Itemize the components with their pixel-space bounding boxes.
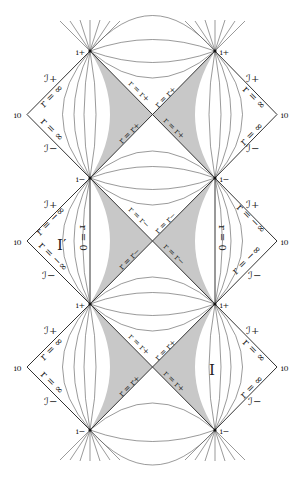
r-infinity: r = ∞: [39, 116, 66, 143]
scri-minus: ℐ−: [248, 270, 261, 281]
i0-label: i0: [14, 364, 22, 373]
i0-label: i0: [281, 111, 289, 120]
i0-label: i0: [281, 238, 289, 247]
label-bottom-right: i−: [220, 427, 229, 436]
label-row1-right: i−: [220, 175, 229, 184]
i0-label: i0: [281, 364, 289, 373]
label-top-left: i+: [76, 48, 85, 57]
scri-plus: ℐ+: [44, 325, 57, 336]
region-I-prime: I′: [57, 236, 67, 254]
scri-plus: ℐ+: [246, 73, 259, 84]
r-infinity: r = ∞: [241, 337, 268, 364]
horizon-lines: [90, 51, 215, 430]
label-row1-left: i−: [76, 175, 85, 184]
penrose-diagram: i+ i+ i− i− i+ i+ i− i− ℐ+ ℐ− i0 r = ∞ r…: [0, 0, 305, 478]
scri-minus: ℐ−: [44, 143, 57, 154]
vertex-labels: i+ i+ i− i− i+ i+ i− i−: [76, 48, 229, 436]
label-row2-left: i+: [76, 301, 85, 310]
label-top-right: i+: [220, 48, 229, 57]
i0-label: i0: [14, 238, 22, 247]
r-infinity: r = ∞: [38, 82, 65, 109]
region-I: I: [209, 361, 215, 379]
scri-plus: ℐ+: [246, 325, 259, 336]
i0-label: i0: [14, 111, 22, 120]
scri-minus: ℐ−: [42, 270, 55, 281]
scri-minus: ℐ−: [248, 396, 261, 407]
r-infinity: r = ∞: [38, 335, 65, 362]
label-row2-right: i+: [220, 301, 229, 310]
singularity-label: r = 0: [78, 225, 89, 251]
scri-plus: ℐ+: [44, 73, 57, 84]
scri-minus: ℐ−: [44, 396, 57, 407]
label-bottom-left: i−: [76, 427, 85, 436]
singularity-label: r = 0: [217, 225, 228, 251]
r-infinity: r = ∞: [241, 84, 268, 111]
